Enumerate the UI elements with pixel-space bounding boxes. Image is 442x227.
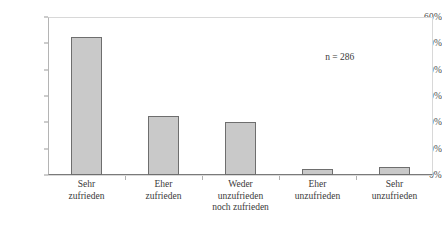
x-axis-category-label-line: Weder [202,179,279,191]
x-axis-category-label-line: zufrieden [48,191,125,203]
sample-size-annotation: n = 286 [325,52,354,62]
x-axis-category-label-line: unzufrieden [279,191,356,203]
x-axis-category-label: Sehrzufrieden [48,179,125,202]
x-axis-category-label: Wederunzufriedennoch zufrieden [202,179,279,214]
x-axis-category-label-line: unzufrieden [356,191,433,203]
x-axis-category-label-line: unzufrieden [202,191,279,203]
x-axis-category-label-line: Eher [125,179,202,191]
x-axis-category-label-line: Sehr [48,179,125,191]
x-axis-category-label-line: Eher [279,179,356,191]
bar-chart: 0%10%20%30%40%50%60% SehrzufriedenEherzu… [0,0,442,227]
x-axis-category-label: Sehrunzufrieden [356,179,433,202]
bar-series [48,17,433,175]
bar [225,122,256,175]
bar [148,116,179,175]
x-axis-category-label-line: Sehr [356,179,433,191]
x-axis-category-label: Eherzufrieden [125,179,202,202]
bar [379,167,410,175]
x-axis-category-label-line: noch zufrieden [202,202,279,214]
bar [71,37,102,175]
x-axis-category-label: Eherunzufrieden [279,179,356,202]
bar [302,169,333,175]
x-axis-category-label-line: zufrieden [125,191,202,203]
